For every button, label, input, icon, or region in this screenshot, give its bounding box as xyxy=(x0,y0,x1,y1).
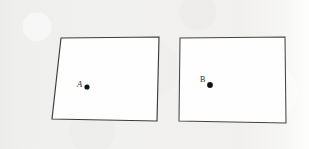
shape-group-a: A xyxy=(52,37,159,121)
shape-group-b: B xyxy=(179,37,286,123)
geometry-figure: A B xyxy=(0,0,309,149)
quadrilateral-b-outline xyxy=(179,37,286,123)
interior-point-dot-a xyxy=(84,84,89,89)
interior-point-dot-b xyxy=(207,82,213,88)
quadrilateral-a-outline xyxy=(52,37,159,121)
figure-canvas: A B xyxy=(0,0,309,149)
point-label-b: B xyxy=(200,75,205,84)
point-label-a: A xyxy=(76,79,83,89)
